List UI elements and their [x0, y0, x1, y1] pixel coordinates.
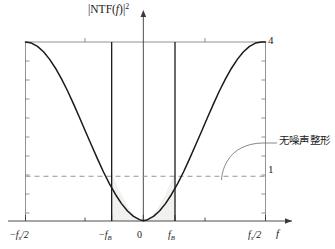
x-tick-label-zero: 0	[137, 230, 142, 240]
x-axis-label: f	[276, 228, 279, 239]
y-tick-label-4: 4	[268, 35, 274, 46]
no-noise-shaping-annotation: 无噪声整形	[279, 135, 330, 146]
ntf-magnitude-squared-chart	[0, 0, 335, 249]
x-tick-label-neg-fs-half: −fs/2	[10, 230, 29, 242]
y-axis-label: |NTF(f)|2	[88, 3, 129, 15]
y-axis-label-text: |NTF(f)|2	[88, 3, 129, 15]
x-tick-label-fs-half: fs/2	[248, 230, 261, 242]
y-tick-label-1: 1	[268, 164, 274, 175]
y-axis-label-exponent: 2	[125, 2, 129, 11]
x-tick-label-fb: fB	[168, 230, 175, 242]
x-tick-label-neg-fb: −fB	[99, 230, 112, 242]
